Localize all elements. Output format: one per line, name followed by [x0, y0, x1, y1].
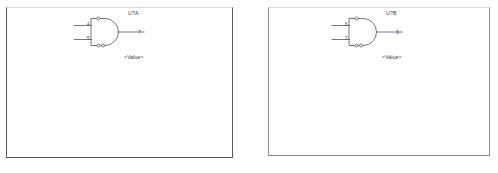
- schematic-canvas: U?A <Value> 4 5 7 U?B <Value> 6 7 3: [0, 0, 498, 173]
- junction-dot: [355, 44, 358, 47]
- gate-value-label: <Value>: [382, 54, 402, 60]
- pin-number-output: 3: [396, 30, 399, 35]
- gate-value-label: <Value>: [124, 54, 144, 60]
- pin-number-input-b: 5: [87, 36, 90, 41]
- pin-number-input-a: 6: [345, 22, 348, 27]
- pin-number-input-a: 4: [87, 22, 90, 27]
- junction-dot: [102, 44, 105, 47]
- junction-dot: [360, 44, 363, 47]
- junction-dot: [97, 44, 100, 47]
- pin-number-input-b: 7: [345, 36, 348, 41]
- junction-dot: [97, 17, 100, 20]
- pin-number-output: 7: [138, 30, 141, 35]
- and-gate-glyph-b: [330, 8, 440, 78]
- junction-dot: [355, 17, 358, 20]
- gate-symbol-u-a[interactable]: U?A <Value> 4 5 7: [72, 8, 182, 78]
- gate-reference-label: U?B: [386, 10, 397, 16]
- gate-symbol-u-b[interactable]: U?B <Value> 6 7 3: [330, 8, 440, 78]
- and-gate-glyph-a: [72, 8, 182, 78]
- gate-reference-label: U?A: [128, 10, 139, 16]
